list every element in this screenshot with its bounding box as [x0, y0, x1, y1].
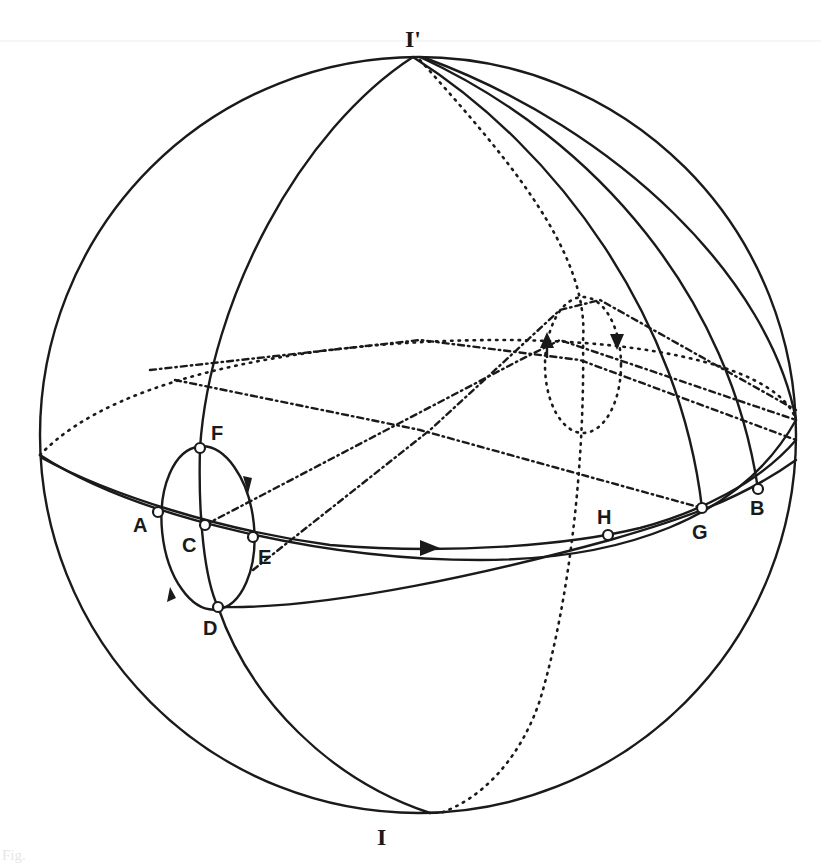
sphere-diagram: I' I A B C D E F G H Fig.: [0, 0, 821, 863]
label-A: A: [133, 514, 147, 536]
label-G: G: [692, 521, 708, 543]
point-A: [153, 507, 163, 517]
point-C: [200, 520, 210, 530]
point-B: [753, 484, 763, 494]
arrow-far-loop-down: [610, 334, 624, 350]
arrow-loop-C-left: [167, 587, 176, 602]
projection-line-1: [205, 340, 796, 525]
point-D: [213, 602, 223, 612]
label-E: E: [258, 546, 271, 568]
meridian-through-C: [200, 57, 430, 813]
label-D: D: [203, 617, 217, 639]
great-circle-orbit-front: [42, 440, 796, 549]
label-pole-top: I': [405, 26, 421, 52]
meridian-to-B: [420, 57, 758, 489]
point-F: [195, 443, 205, 453]
projection-line-3: [253, 300, 796, 570]
great-circle-lower-arc: [218, 460, 796, 607]
caption-fragment: Fig.: [2, 847, 26, 863]
arrow-orbit: [420, 540, 440, 556]
label-F: F: [211, 422, 223, 444]
projection-line-2: [175, 380, 702, 508]
point-G: [697, 503, 707, 513]
label-B: B: [750, 497, 764, 519]
equator-front: [40, 420, 796, 560]
point-H: [603, 530, 613, 540]
sphere-outline: [40, 57, 796, 813]
label-C: C: [182, 534, 196, 556]
point-E: [248, 532, 258, 542]
label-pole-bottom: I: [377, 824, 386, 850]
label-H: H: [597, 506, 611, 528]
